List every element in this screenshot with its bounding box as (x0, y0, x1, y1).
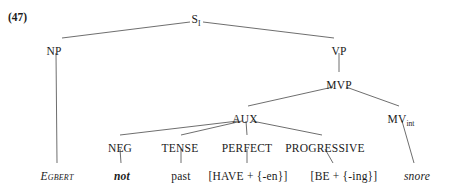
tree-node-progressive: PROGRESSIVE (285, 142, 365, 154)
tree-node-label: NEG (108, 142, 132, 154)
tree-terminal-past: past (171, 170, 190, 182)
tree-node-s: SI (191, 13, 200, 28)
tree-node-vp: VP (331, 45, 346, 57)
tree-node-aux: AUX (232, 113, 258, 125)
tree-node-mvp: MVP (326, 79, 352, 91)
branch-s-np (62, 22, 190, 38)
tree-node-label: TENSE (162, 142, 199, 154)
tree-node-label: MV (388, 113, 407, 125)
branch-mvp-mv (346, 87, 399, 106)
tree-node-np: NP (46, 45, 61, 57)
tree-terminal-egbert: Egbert (40, 170, 73, 182)
branch-s-vp (203, 22, 334, 38)
tree-node-label: AUX (232, 113, 258, 125)
tree-terminal-be-ing: [BE + {-ing}] (311, 170, 378, 182)
tree-node-tense: TENSE (162, 142, 199, 154)
tree-node-subscript: I (198, 19, 201, 28)
tree-node-mv: MVint (388, 113, 415, 128)
tree-node-label: MVP (326, 79, 352, 91)
tree-node-label: PERFECT (222, 142, 273, 154)
tree-node-perfect: PERFECT (222, 142, 273, 154)
tree-node-neg: NEG (108, 142, 132, 154)
tree-terminal-have-en: [HAVE + {-en}] (209, 170, 288, 182)
branch-np-egbert (56, 53, 57, 163)
tree-terminal-not: not (114, 170, 130, 182)
tree-branch-lines (0, 0, 467, 188)
tree-node-label: PROGRESSIVE (285, 142, 365, 154)
branch-aux-neg (120, 121, 238, 135)
tree-node-subscript: int (406, 119, 414, 128)
tree-node-label: VP (331, 45, 346, 57)
syntax-tree-figure: (47) SINPVPMVPAUXMVintNEGTENSEPERFECTPRO… (0, 0, 467, 188)
tree-node-label: NP (46, 45, 61, 57)
branch-aux-progressive (252, 121, 322, 135)
tree-terminal-snore: snore (404, 170, 430, 182)
branch-mvp-aux (248, 87, 333, 106)
